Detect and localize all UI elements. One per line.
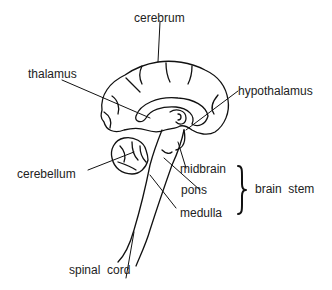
leader-lines [62,22,238,278]
label-thalamus: thalamus [28,68,77,80]
inner-curves [170,110,186,124]
brainstem [118,130,184,266]
cerebellum-folds [118,142,146,170]
label-cerebrum: cerebrum [134,12,185,24]
brain-illustration [0,0,332,290]
label-hypothalamus: hypothalamus [238,85,313,97]
label-spinal-cord: spinal cord [69,264,130,276]
label-medulla: medulla [180,207,222,219]
brain-stem-brace [238,166,246,214]
label-brain-stem: brain stem [255,183,314,195]
label-midbrain: midbrain [180,163,226,175]
label-cerebellum: cerebellum [17,168,76,180]
label-pons: pons [181,184,207,196]
